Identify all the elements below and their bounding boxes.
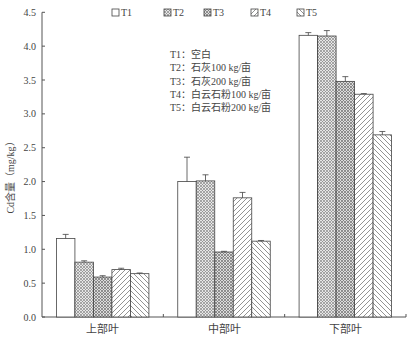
bar-t3 <box>93 277 112 317</box>
legend-swatch-t2 <box>164 9 171 16</box>
bar-t1 <box>178 182 197 317</box>
y-tick-label: 1.5 <box>24 210 37 221</box>
y-axis-label: Cd含量（mg/kg） <box>4 136 16 213</box>
legend-label: T4 <box>260 7 271 18</box>
legend-swatch-t1 <box>112 9 119 16</box>
y-tick-label: 2.0 <box>24 176 37 187</box>
bar-t4 <box>112 270 130 317</box>
bar-t3 <box>215 252 234 317</box>
treatment-note: T5：白云石粉200 kg/亩 <box>170 101 271 113</box>
bar-t2 <box>318 36 337 317</box>
x-category-label: 中部叶 <box>208 322 241 335</box>
legend: T1T2T3T4T5 <box>112 7 317 18</box>
legend-label: T3 <box>213 7 224 18</box>
treatment-notes: T1：空白T2：石灰100 kg/亩T3：石灰200 kg/亩T4：白云石粉10… <box>170 48 271 113</box>
treatment-note: T1：空白 <box>170 48 211 60</box>
x-category-label: 下部叶 <box>329 322 362 335</box>
y-tick-label: 1.0 <box>24 244 37 255</box>
bar-t3 <box>336 81 355 317</box>
y-tick-label: 3.5 <box>24 75 37 86</box>
y-tick-label: 0.5 <box>24 278 37 289</box>
bars-group <box>56 31 391 317</box>
treatment-note: T2：石灰100 kg/亩 <box>170 61 251 73</box>
bar-t4 <box>355 94 374 317</box>
bar-chart: 0.00.51.01.52.02.53.03.54.04.5 上部叶中部叶下部叶… <box>0 0 407 346</box>
treatment-note: T3：石灰200 kg/亩 <box>170 75 251 87</box>
y-tick-label: 3.0 <box>24 108 37 119</box>
legend-swatch-t3 <box>204 9 211 16</box>
bar-t2 <box>196 181 215 317</box>
legend-label: T1 <box>121 7 132 18</box>
x-category-label: 上部叶 <box>86 322 119 335</box>
y-tick-label: 2.5 <box>24 142 37 153</box>
bar-t4 <box>233 198 252 317</box>
bar-t5 <box>373 135 392 317</box>
y-tick-label: 4.5 <box>24 7 37 18</box>
legend-swatch-t5 <box>297 9 304 16</box>
y-axis: 0.00.51.01.52.02.53.03.54.04.5 <box>24 7 46 323</box>
legend-swatch-t4 <box>251 9 258 16</box>
y-tick-label: 0.0 <box>24 312 37 323</box>
bar-t5 <box>130 274 149 317</box>
treatment-note: T4：白云石粉100 kg/亩 <box>170 88 271 100</box>
y-tick-label: 4.0 <box>24 41 37 52</box>
bar-t1 <box>56 238 75 317</box>
legend-label: T5 <box>306 7 317 18</box>
legend-label: T2 <box>173 7 184 18</box>
bar-t2 <box>75 262 94 317</box>
bar-t1 <box>299 35 318 317</box>
bar-t5 <box>252 241 271 317</box>
